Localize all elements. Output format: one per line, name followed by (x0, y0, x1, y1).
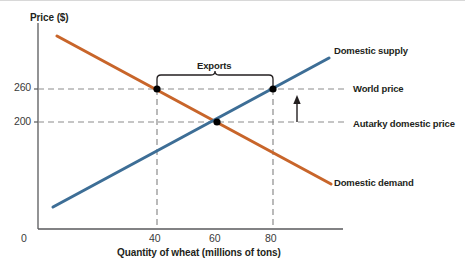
exports-bracket (157, 71, 273, 89)
price-rise-arrow-head (293, 95, 300, 104)
marker-domestic-supply-at-world-price (153, 85, 160, 92)
y-tick-label-200: 200 (14, 116, 31, 127)
x-tick-label-60: 60 (209, 233, 220, 244)
domestic-supply-curve (53, 58, 329, 207)
x-tick-label-0: 0 (21, 233, 27, 244)
chart-plot-area (0, 1, 465, 265)
economics-chart-figure: Price ($) Quantity of wheat (millions of… (0, 0, 465, 265)
domestic-demand-curve (57, 36, 331, 184)
exports-label: Exports (197, 61, 231, 71)
x-tick-label-80: 80 (265, 233, 276, 244)
y-tick-label-260: 260 (14, 82, 31, 93)
domestic-supply-label: Domestic supply (334, 46, 408, 56)
y-axis-title: Price ($) (30, 13, 69, 23)
x-tick-label-40: 40 (149, 233, 160, 244)
marker-autarky-equilibrium (213, 118, 220, 125)
domestic-demand-label: Domestic demand (334, 178, 414, 188)
world-price-label: World price (353, 84, 403, 94)
marker-domestic-demand-at-world-price (269, 85, 276, 92)
autarky-price-label: Autarky domestic price (353, 119, 455, 129)
x-axis-title: Quantity of wheat (millions of tons) (117, 248, 281, 258)
